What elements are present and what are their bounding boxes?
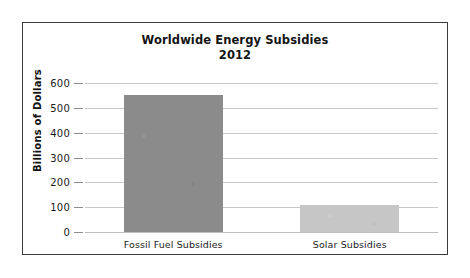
chart-figure: Worldwide Energy Subsidies 2012 Billions… (22, 22, 448, 255)
gridline-600 (85, 83, 438, 84)
y-tick-label-100: 100 (50, 202, 70, 213)
chart-title-line1: Worldwide Energy Subsidies (142, 33, 329, 47)
y-tick-label-500: 500 (50, 102, 70, 113)
y-tick-mark-500 (74, 108, 83, 109)
y-tick-mark-300 (74, 158, 83, 159)
y-tick-label-400: 400 (50, 127, 70, 138)
gridline-0 (85, 232, 438, 233)
plot-area: 0100200300400500600Fossil Fuel Subsidies… (85, 83, 438, 232)
y-tick-label-200: 200 (50, 177, 70, 188)
x-tick-label-0: Fossil Fuel Subsidies (124, 239, 223, 250)
y-tick-label-0: 0 (63, 227, 70, 238)
y-axis-title: Billions of Dollars (32, 61, 43, 181)
y-tick-mark-100 (74, 207, 83, 208)
chart-title-line2: 2012 (23, 48, 447, 63)
chart-title: Worldwide Energy Subsidies 2012 (23, 33, 447, 63)
y-tick-label-300: 300 (50, 152, 70, 163)
bar-0 (124, 95, 223, 232)
y-tick-mark-0 (74, 232, 83, 233)
bar-1 (300, 205, 399, 232)
y-tick-mark-400 (74, 133, 83, 134)
y-tick-mark-200 (74, 182, 83, 183)
x-tick-label-1: Solar Subsidies (313, 239, 387, 250)
y-tick-mark-600 (74, 83, 83, 84)
y-tick-label-600: 600 (50, 78, 70, 89)
